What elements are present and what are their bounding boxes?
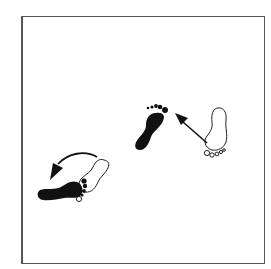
arrow-up-left-icon [175, 113, 207, 143]
solid-foot-icon [135, 104, 168, 150]
outline-foot-icon [204, 108, 226, 157]
footwork-diagram [0, 0, 271, 269]
curved-arrow-icon [50, 153, 97, 180]
